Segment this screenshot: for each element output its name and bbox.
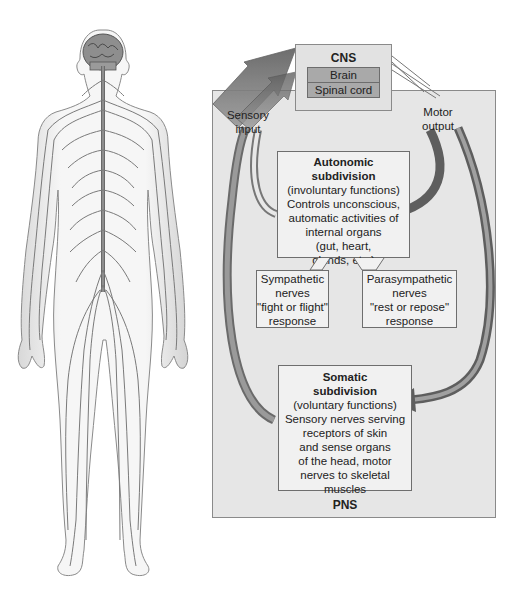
pns-title: PNS <box>320 498 370 512</box>
parasympathetic-nerves-box: Parasympathetic nerves "rest or repose" … <box>362 270 457 328</box>
somatic-subdivision-box: Somatic subdivision (voluntary functions… <box>278 365 412 491</box>
sympathetic-nerves-box: Sympathetic nerves "fight or flight" res… <box>256 270 329 328</box>
